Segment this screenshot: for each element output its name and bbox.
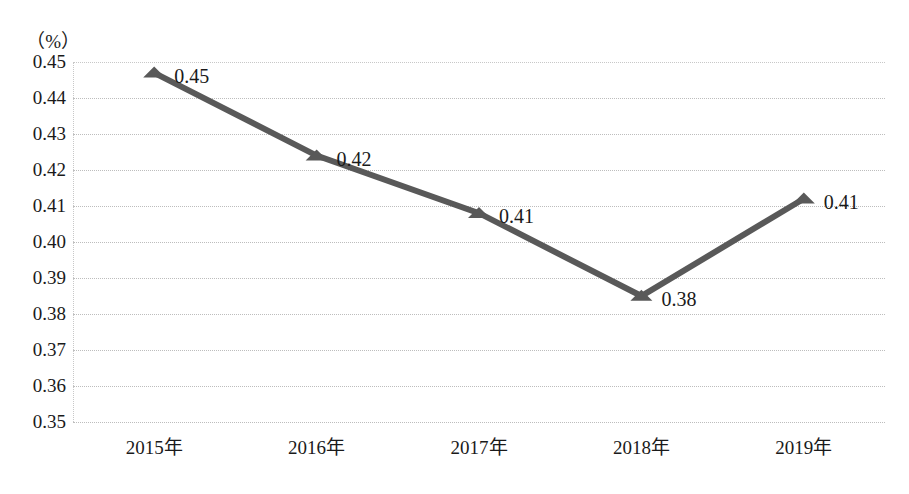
y-axis-tick-label: 0.36 — [4, 375, 66, 397]
y-axis-tick-label: 0.40 — [4, 231, 66, 253]
y-axis-tick-label: 0.39 — [4, 267, 66, 289]
gridline — [73, 242, 885, 243]
x-axis-tick-label: 2017年 — [451, 432, 508, 459]
y-axis-tick-label: 0.44 — [4, 87, 66, 109]
gridline — [73, 278, 885, 279]
plot-area — [73, 62, 885, 422]
x-axis-tick-label: 2015年 — [126, 432, 183, 459]
gridline — [73, 98, 885, 99]
gridline — [73, 350, 885, 351]
gridline — [73, 314, 885, 315]
y-axis-tick-label: 0.37 — [4, 339, 66, 361]
chart-page: （%） 0.450.440.430.420.410.400.390.380.37… — [0, 0, 909, 494]
data-point-label: 0.45 — [174, 64, 209, 87]
y-axis-tick-label: 0.38 — [4, 303, 66, 325]
y-axis-tick-label: 0.45 — [4, 51, 66, 73]
y-axis-tick-label: 0.43 — [4, 123, 66, 145]
x-axis-tick-label: 2016年 — [288, 432, 345, 459]
y-axis-tick-label: 0.35 — [4, 411, 66, 433]
y-axis-tick-labels: 0.450.440.430.420.410.400.390.380.370.36… — [0, 62, 66, 422]
gridline — [73, 62, 885, 63]
x-axis-tick-labels: 2015年2016年2017年2018年2019年 — [73, 432, 885, 466]
gridline — [73, 422, 885, 423]
data-point-label: 0.42 — [337, 147, 372, 170]
gridline — [73, 134, 885, 135]
x-axis-tick-label: 2019年 — [775, 432, 832, 459]
y-axis-tick-label: 0.41 — [4, 195, 66, 217]
gridline — [73, 170, 885, 171]
gridline — [73, 386, 885, 387]
y-axis-unit-label: （%） — [26, 26, 81, 53]
x-axis-tick-label: 2018年 — [613, 432, 670, 459]
data-point-label: 0.41 — [499, 205, 534, 228]
data-point-label: 0.41 — [824, 190, 859, 213]
y-axis-tick-label: 0.42 — [4, 159, 66, 181]
data-point-label: 0.38 — [661, 288, 696, 311]
gridline — [73, 206, 885, 207]
